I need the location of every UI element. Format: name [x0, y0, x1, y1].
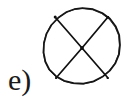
- figure-item-label: e): [8, 63, 31, 97]
- cross-intersection-node: [80, 46, 84, 50]
- cross-endpoint-node-bottom-right: [107, 77, 109, 79]
- cross-endpoint-node-top-left: [54, 16, 57, 19]
- cross-endpoint-node-top-right: [107, 16, 110, 19]
- cross-endpoint-node-bottom-left: [55, 77, 57, 79]
- figure-canvas: e): [0, 0, 131, 112]
- circle-outline-shape: [44, 8, 120, 84]
